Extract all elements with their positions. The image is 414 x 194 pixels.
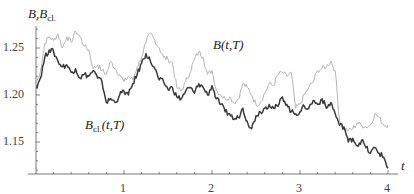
x-tick-label: 4 bbox=[384, 181, 390, 194]
chart-canvas bbox=[0, 0, 414, 194]
series-label-bcl: Bcl.(t,T) bbox=[85, 117, 124, 134]
x-tick-label: 3 bbox=[296, 181, 302, 194]
x-axis-title: t bbox=[401, 158, 405, 174]
y-axis-title: B,Bcl. bbox=[28, 6, 56, 23]
series-label-b: B(t,T) bbox=[213, 37, 244, 53]
x-tick-label: 2 bbox=[208, 181, 214, 194]
y-tick-label: 1.20 bbox=[3, 87, 24, 102]
series-group bbox=[36, 31, 388, 168]
y-tick-label: 1.15 bbox=[3, 134, 24, 149]
y-tick-label: 1.25 bbox=[3, 40, 24, 55]
x-tick-label: 1 bbox=[120, 181, 126, 194]
series-bcl-line bbox=[36, 49, 388, 169]
